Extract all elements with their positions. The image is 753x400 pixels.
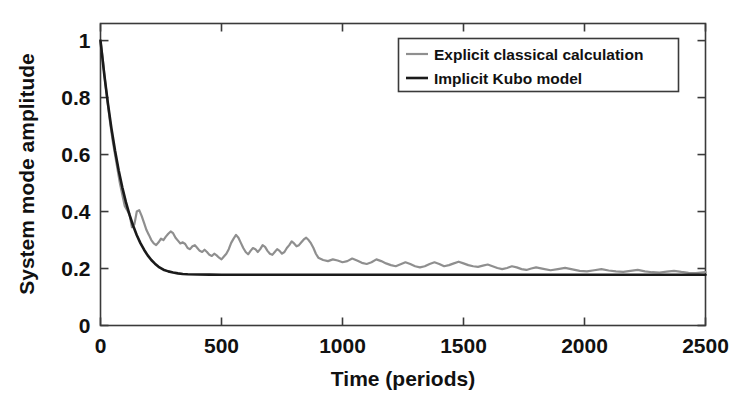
x-tick-label-2000: 2000 [561, 334, 608, 357]
x-tick-label-1500: 1500 [440, 334, 487, 357]
x-tick-label-1000: 1000 [319, 334, 366, 357]
y-tick-label-0.8: 0.8 [61, 86, 91, 109]
x-tick-label-2500: 2500 [682, 334, 729, 357]
x-tick-label-500: 500 [204, 334, 239, 357]
x-tick-label-0: 0 [95, 334, 107, 357]
y-tick-label-0: 0 [79, 314, 91, 337]
y-axis-title: System mode amplitude [15, 53, 38, 295]
y-tick-label-0.4: 0.4 [61, 200, 91, 223]
line-chart: 05001000150020002500 00.20.40.60.81 Time… [0, 0, 753, 400]
y-tick-label-0.6: 0.6 [61, 143, 90, 166]
chart-legend[interactable]: Explicit classical calculation Implicit … [399, 39, 679, 92]
x-axis-title: Time (periods) [331, 367, 475, 390]
legend-label-explicit-classical-calculation: Explicit classical calculation [434, 46, 643, 63]
legend-label-implicit-kubo-model: Implicit Kubo model [434, 70, 582, 87]
y-tick-label-0.2: 0.2 [61, 257, 90, 280]
y-tick-label-1: 1 [79, 29, 91, 52]
chart-figure: 05001000150020002500 00.20.40.60.81 Time… [0, 0, 753, 400]
